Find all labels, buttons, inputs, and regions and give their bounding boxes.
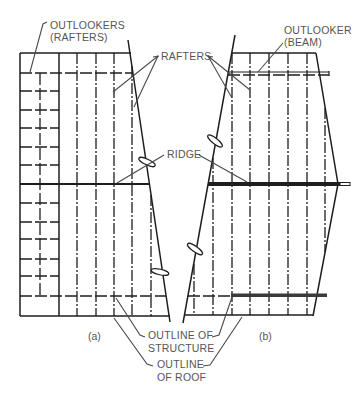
label-text: (RAFTERS) [50,31,108,43]
label-text: RAFTERS [161,50,211,62]
ridge-end-tab [340,183,350,186]
label-text: RIDGE [167,148,201,160]
panel-a-framing-plan: (a) [20,40,170,342]
leader-line [208,56,250,90]
leader-line [116,298,145,337]
label-ridge: RIDGE [117,148,247,183]
leader-line [134,56,158,107]
label-text: OF ROOF [157,371,206,383]
panel-b-caption: (b) [259,330,272,342]
panel-b-ridge-beam [208,182,350,186]
roof-framing-diagram: (a) [0,0,362,396]
label-text: (BEAM) [284,36,322,48]
leader-line [30,22,47,72]
panel-b-left-outline [183,35,235,323]
leader-line [212,297,232,337]
label-text: OUTLINE [157,358,204,370]
panel-b-outlooker-beam-bottom [188,294,327,298]
break-symbol-icon [151,267,170,276]
label-outlookers-rafters: OUTLOOKERS (RAFTERS) [30,19,125,72]
diagram-canvas: (a) [0,0,362,396]
label-text: OUTLOOKERS [50,19,125,31]
leader-line [199,155,247,182]
leader-line [208,56,232,98]
panel-a-roof-outline [128,40,170,322]
leader-line [258,43,283,72]
label-text: STRUCTURE [148,342,215,354]
panel-b-framing-plan: (b) [183,35,350,342]
panel-b-outlooker-beam-top [228,71,329,76]
label-text: OUTLOOKER [284,24,352,36]
label-outlooker-beam: OUTLOOKER (BEAM) [258,24,352,72]
panel-a-caption: (a) [88,330,101,342]
label-text: OUTLINE OF [148,329,213,341]
